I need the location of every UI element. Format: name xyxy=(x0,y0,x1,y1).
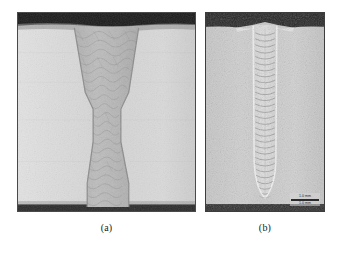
weld-macrograph-b-image xyxy=(206,13,324,211)
caption-panel-b: (b) xyxy=(205,222,325,233)
scale-bar-label-bottom: 1.0 mm xyxy=(291,201,319,205)
figure-panel-b: 1.0 mm 1.0 mm xyxy=(205,12,325,212)
weld-macrograph-a-image xyxy=(18,13,195,211)
figure-root: 1.0 mm 1.0 mm (a) (b) xyxy=(0,0,338,254)
scale-bar-label-top: 1.0 mm xyxy=(291,194,319,198)
caption-panel-a: (a) xyxy=(17,222,196,233)
scale-bar: 1.0 mm 1.0 mm xyxy=(290,193,320,206)
figure-panel-a xyxy=(17,12,196,212)
